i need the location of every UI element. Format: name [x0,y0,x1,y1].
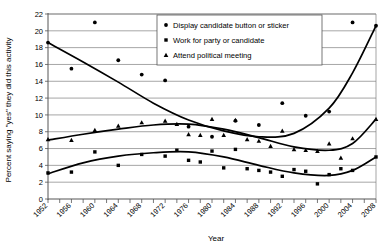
y-tick-label: 6 [39,144,43,153]
data-point [140,153,143,156]
legend-marker-circle-icon [164,23,168,27]
data-point [198,133,203,137]
y-tick-label: 4 [39,161,43,170]
x-tick-label: 2004 [336,201,354,219]
x-tick-label: 1972 [148,201,166,219]
legend-item-label: Attend political meeting [173,51,252,60]
data-point [199,160,202,163]
x-axis-tick-labels: 1952195619601964196819721976198019841988… [31,201,377,219]
y-tick-label: 20 [35,27,43,36]
data-point [139,120,144,124]
x-tick-label: 2008 [359,201,377,219]
data-point [339,155,344,159]
data-point [70,67,74,71]
data-point [140,73,144,77]
data-point [210,135,214,139]
data-point [210,149,213,152]
chart-container: 0246810121416182022 19521956196019641968… [0,0,386,246]
data-point [187,159,190,162]
x-tick-label: 1976 [172,201,190,219]
data-point [46,171,49,174]
x-tick-label: 1964 [102,201,120,219]
legend-item-label: Display candidate button or sticker [173,21,290,30]
data-point [304,170,307,173]
y-tick-label: 16 [35,60,43,69]
data-point [163,118,168,122]
data-point [187,125,191,129]
data-point [374,24,378,28]
y-axis-title: Percent saying "yes" they did this activ… [4,38,13,183]
data-point [292,168,295,171]
y-tick-label: 18 [35,43,43,52]
data-point [327,110,331,114]
trend-line-series-1 [48,152,376,176]
data-point [245,137,250,141]
y-tick-label: 12 [35,94,43,103]
data-point [316,182,319,185]
data-point [117,164,120,167]
data-point [222,166,225,169]
data-point [257,123,261,127]
x-tick-label: 1960 [78,201,96,219]
x-tick-label: 1996 [289,201,307,219]
data-point [46,41,50,45]
trend-line-series-2 [48,119,376,150]
data-point [210,117,215,121]
data-point [186,132,191,136]
data-point [257,169,260,172]
data-point [350,136,355,140]
data-point [233,118,238,122]
data-point [69,138,74,142]
data-point [374,155,377,158]
data-point [245,167,248,170]
x-tick-label: 1992 [266,201,284,219]
data-point [351,169,354,172]
x-tick-label: 1956 [55,201,73,219]
y-tick-label: 10 [35,111,43,120]
data-point [339,167,342,170]
data-point [163,154,166,157]
data-point [221,133,226,137]
x-tick-label: 1968 [125,201,143,219]
data-point [280,129,285,133]
data-point [327,173,330,176]
data-point [116,124,121,128]
y-tick-label: 8 [39,127,43,136]
legend-marker-square-icon [164,38,167,41]
data-point [257,139,262,143]
data-point [175,149,178,152]
chart-legend: Display candidate button or stickerWork … [157,15,322,65]
data-point [281,175,284,178]
data-point [327,141,332,145]
y-tick-label: 2 [39,178,43,187]
legend-item-1[interactable]: Work for party or candidate [164,36,264,45]
legend-item-label: Work for party or candidate [173,36,264,45]
x-axis-title: Year [208,234,225,243]
data-point [268,144,273,148]
x-tick-label: 1984 [219,201,237,219]
data-point [234,148,237,151]
legend-item-0[interactable]: Display candidate button or sticker [164,21,289,30]
series-points-1 [46,148,377,186]
x-tick-label: 2000 [312,201,330,219]
data-point [93,150,96,153]
x-axis-tickmarks [48,199,376,203]
data-point [70,170,73,173]
y-tick-label: 14 [35,77,43,86]
x-tick-label: 1980 [195,201,213,219]
data-point [116,58,120,62]
data-point [374,117,379,121]
data-point [163,79,167,83]
data-point [269,170,272,173]
data-point [93,128,98,132]
legend-item-2[interactable]: Attend political meeting [164,51,252,60]
data-point [93,21,97,25]
y-tick-label: 22 [35,10,43,19]
data-point [304,114,308,118]
data-point [280,101,284,105]
data-point [351,21,355,25]
x-tick-label: 1952 [31,201,49,219]
x-tick-label: 1988 [242,201,260,219]
y-axis-tick-labels: 0246810121416182022 [35,10,43,204]
political-participation-scatter-chart: 0246810121416182022 19521956196019641968… [0,0,386,246]
